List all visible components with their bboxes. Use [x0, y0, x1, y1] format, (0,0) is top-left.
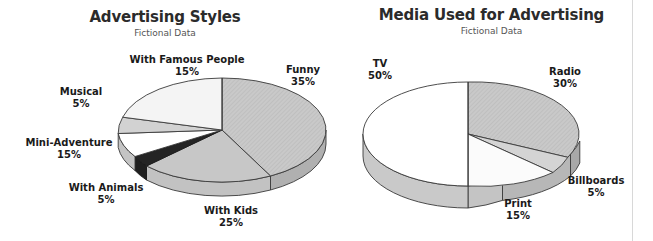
slice-label-tv-text: TV — [373, 58, 388, 69]
slice-label-with-animals: With Animals 5% — [56, 182, 156, 205]
slice-label-funny-text: Funny — [286, 64, 320, 75]
slice-label-mini-adventure: Mini-Adventure 15% — [16, 137, 122, 160]
slice-label-musical-text: Musical — [60, 86, 103, 97]
slice-label-radio: Radio 30% — [538, 66, 592, 89]
slice-label-with-animals-text: With Animals — [69, 182, 144, 193]
slice-label-with-animals-pct: 5% — [56, 194, 156, 206]
slice-label-print: Print 15% — [490, 198, 546, 221]
slice-label-print-text: Print — [504, 198, 532, 209]
panel-divider — [632, 0, 633, 241]
slice-label-billboards: Billboards 5% — [558, 175, 634, 198]
slice-label-funny-pct: 35% — [278, 76, 328, 88]
slice-label-with-kids: With Kids 25% — [186, 205, 276, 228]
slice-label-funny: Funny 35% — [278, 64, 328, 87]
slice-label-with-famous-people-text: With Famous People — [129, 54, 244, 65]
pie-chart-advertising-styles — [0, 0, 330, 241]
slice-label-with-kids-pct: 25% — [186, 217, 276, 229]
slice-label-radio-text: Radio — [549, 66, 581, 77]
slice-label-with-famous-people-pct: 15% — [112, 66, 262, 78]
slice-label-with-kids-text: With Kids — [204, 205, 258, 216]
slice-label-tv: TV 50% — [358, 58, 402, 81]
media-used-chart-panel: Media Used for Advertising Fictional Dat… — [330, 0, 653, 241]
slice-label-musical-pct: 5% — [46, 98, 116, 110]
slice-label-print-pct: 15% — [490, 210, 546, 222]
slice-label-mini-adventure-pct: 15% — [16, 149, 122, 161]
slice-label-billboards-pct: 5% — [558, 187, 634, 199]
slice-label-billboards-text: Billboards — [568, 175, 625, 186]
advertising-styles-chart-panel: Advertising Styles Fictional Data — [0, 0, 330, 241]
slice-label-musical: Musical 5% — [46, 86, 116, 109]
slice-label-mini-adventure-text: Mini-Adventure — [25, 137, 112, 148]
slice-label-with-famous-people: With Famous People 15% — [112, 54, 262, 77]
slice-label-tv-pct: 50% — [358, 70, 402, 82]
slice-label-radio-pct: 30% — [538, 78, 592, 90]
